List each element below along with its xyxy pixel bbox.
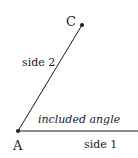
point-c-dot bbox=[80, 23, 84, 27]
point-a-label: A bbox=[12, 138, 23, 153]
side-2-label: side 2 bbox=[22, 56, 55, 69]
point-a-dot bbox=[16, 129, 20, 133]
diagram-canvas: C A side 2 included angle side 1 bbox=[0, 0, 138, 158]
point-c-label: C bbox=[66, 14, 76, 29]
angle-diagram: C A side 2 included angle side 1 bbox=[0, 0, 138, 158]
side-1-label: side 1 bbox=[84, 138, 117, 151]
included-angle-label: included angle bbox=[38, 113, 121, 126]
